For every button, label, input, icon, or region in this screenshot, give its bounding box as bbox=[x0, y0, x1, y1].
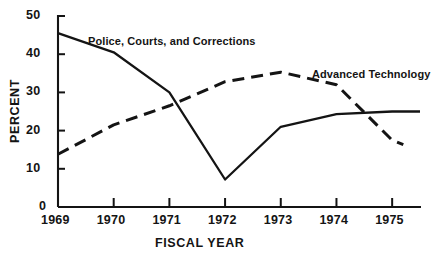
x-axis-title: FISCAL YEAR bbox=[155, 236, 245, 250]
y-tick-label: 10 bbox=[26, 161, 40, 175]
y-axis-title: PERCENT bbox=[8, 75, 22, 147]
y-tick-label: 30 bbox=[26, 84, 40, 98]
x-tick-label: 1974 bbox=[319, 213, 348, 227]
x-tick-label: 1975 bbox=[375, 213, 404, 227]
x-tick-label: 1969 bbox=[41, 213, 70, 227]
y-tick-label: 20 bbox=[26, 123, 40, 137]
series-line-1 bbox=[58, 33, 420, 179]
series-label-advanced-technology: Advanced Technology bbox=[312, 68, 430, 80]
x-tick-label: 1970 bbox=[97, 213, 126, 227]
x-tick-label: 1972 bbox=[208, 213, 237, 227]
x-tick-label: 1973 bbox=[264, 213, 293, 227]
data-series-layer bbox=[58, 33, 420, 179]
series-label-police-courts-corrections: Police, Courts, and Corrections bbox=[88, 35, 256, 47]
y-tick-label: 40 bbox=[26, 46, 40, 60]
y-tick-label: 0 bbox=[39, 199, 46, 213]
chart-figure: 01020304050 1969197019711972197319741975… bbox=[0, 0, 431, 261]
y-tick-label: 50 bbox=[26, 8, 40, 22]
x-tick-label: 1971 bbox=[152, 213, 181, 227]
x-axis-ticks bbox=[114, 198, 392, 207]
